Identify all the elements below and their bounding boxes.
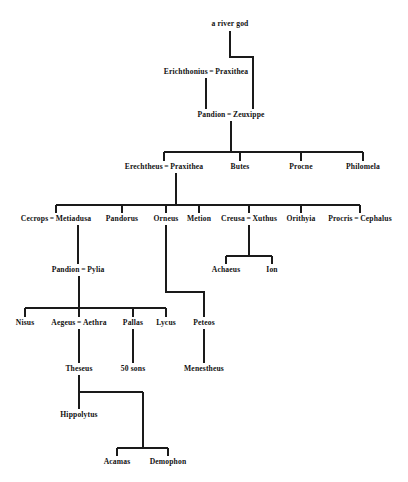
partner-name: Metiadusa — [56, 214, 92, 223]
person-node-menestheus: Menestheus — [184, 365, 224, 373]
partner-name: Praxithea — [170, 162, 203, 171]
union-symbol: = — [353, 214, 360, 223]
partner-name: Aethra — [83, 318, 107, 327]
person-node-procris: Procris=Cephalus — [328, 215, 392, 223]
person-node-philomela: Philomela — [346, 163, 380, 171]
person-node-cecrops: Cecrops=Metiadusa — [21, 215, 92, 223]
union-symbol: = — [75, 318, 82, 327]
union-symbol: = — [163, 162, 170, 171]
partner-name: Praxithea — [215, 67, 248, 76]
genealogy-chart: a river godErichthonius=PraxitheaPandion… — [0, 0, 408, 482]
person-node-nisus: Nisus — [16, 319, 34, 327]
partner-name: Pylia — [87, 265, 104, 274]
person-name: Butes — [231, 162, 250, 171]
person-name: Orneus — [154, 214, 179, 223]
person-node-procne: Procne — [289, 163, 313, 171]
person-name: Procne — [289, 162, 313, 171]
person-name: Peteos — [193, 318, 215, 327]
person-name: Erechtheus — [125, 162, 163, 171]
person-node-pandorus: Pandorus — [106, 215, 138, 223]
person-node-pandion-2: Pandion=Pylia — [52, 266, 105, 274]
person-name: Pandion — [52, 265, 80, 274]
person-name: Procris — [328, 214, 353, 223]
person-node-theseus: Theseus — [65, 365, 92, 373]
person-name: 50 sons — [121, 364, 145, 373]
person-node-butes: Butes — [231, 163, 250, 171]
union-symbol: = — [80, 265, 87, 274]
person-node-ion: Ion — [266, 266, 277, 274]
person-node-achaeus: Achaeus — [212, 266, 240, 274]
person-name: Pandion — [197, 110, 225, 119]
person-name: Achaeus — [212, 265, 240, 274]
partner-name: Zeuxippe — [233, 110, 265, 119]
node-layer: a river godErichthonius=PraxitheaPandion… — [0, 0, 408, 482]
person-name: Ion — [266, 265, 277, 274]
partner-name: Cephalus — [360, 214, 392, 223]
person-name: Philomela — [346, 162, 380, 171]
person-name: Aegeus — [51, 318, 75, 327]
person-name: Nisus — [16, 318, 34, 327]
person-name: Pallas — [123, 318, 143, 327]
person-name: Acamas — [104, 457, 131, 466]
person-node-demophon: Demophon — [150, 458, 187, 466]
person-node-lycus: Lycus — [156, 319, 176, 327]
person-node-peteos: Peteos — [193, 319, 215, 327]
person-name: Menestheus — [184, 364, 224, 373]
person-name: Creusa — [221, 214, 245, 223]
person-name: a river god — [212, 19, 249, 28]
person-node-metion: Metion — [187, 215, 211, 223]
person-node-pallas: Pallas — [123, 319, 143, 327]
person-node-fifty-sons: 50 sons — [121, 365, 145, 373]
person-node-erechtheus: Erechtheus=Praxithea — [125, 163, 204, 171]
person-node-hippolytus: Hippolytus — [60, 411, 97, 419]
person-node-erichthonius: Erichthonius=Praxithea — [164, 68, 248, 76]
person-node-river-god: a river god — [212, 20, 249, 28]
person-name: Orithyia — [286, 214, 315, 223]
person-name: Lycus — [156, 318, 176, 327]
person-name: Pandorus — [106, 214, 138, 223]
union-symbol: = — [48, 214, 55, 223]
person-node-creusa: Creusa=Xuthus — [221, 215, 277, 223]
person-node-orithyia: Orithyia — [286, 215, 315, 223]
person-name: Cecrops — [21, 214, 48, 223]
person-name: Erichthonius — [164, 67, 208, 76]
union-symbol: = — [225, 110, 232, 119]
person-name: Theseus — [65, 364, 92, 373]
person-node-pandion-1: Pandion=Zeuxippe — [197, 111, 264, 119]
person-node-acamas: Acamas — [104, 458, 131, 466]
person-name: Hippolytus — [60, 410, 97, 419]
partner-name: Xuthus — [252, 214, 277, 223]
person-node-aegeus: Aegeus=Aethra — [51, 319, 106, 327]
person-node-orneus: Orneus — [154, 215, 179, 223]
person-name: Metion — [187, 214, 211, 223]
person-name: Demophon — [150, 457, 187, 466]
